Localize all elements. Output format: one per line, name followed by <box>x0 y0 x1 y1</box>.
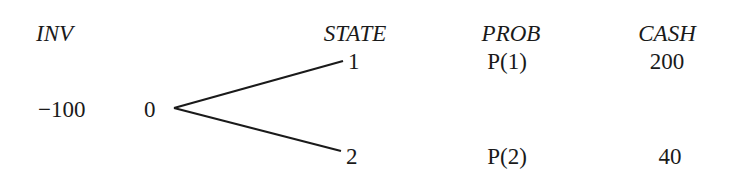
cash-1-value: 200 <box>650 50 685 73</box>
state-1-label: 1 <box>348 50 360 73</box>
prob-1-value: P(1) <box>487 50 527 73</box>
state-2-label: 2 <box>346 145 358 168</box>
branch-line-state-1 <box>174 61 343 108</box>
prob-2-value: P(2) <box>487 145 527 168</box>
branch-lines <box>0 0 738 181</box>
branch-line-state-2 <box>174 108 341 151</box>
cash-2-value: 40 <box>659 145 682 168</box>
